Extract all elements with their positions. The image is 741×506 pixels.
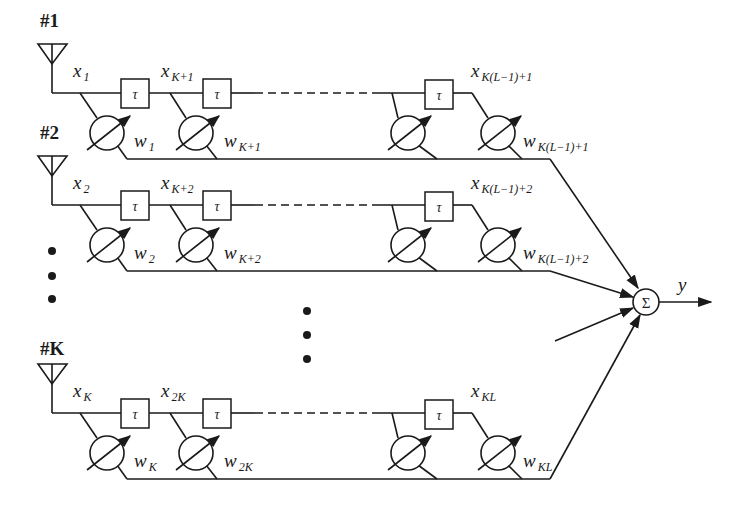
svg-text:x2: x2 bbox=[72, 172, 89, 196]
antenna-icon bbox=[38, 44, 67, 64]
svg-text:wK: wK bbox=[134, 450, 158, 474]
svg-text:x2K: x2K bbox=[160, 380, 186, 404]
svg-text:wK+2: wK+2 bbox=[224, 242, 261, 266]
summer-node: Σ bbox=[633, 289, 659, 315]
antenna-label-k: #K bbox=[40, 338, 65, 359]
svg-text:x1: x1 bbox=[72, 60, 89, 84]
svg-text:xKL: xKL bbox=[470, 380, 496, 404]
svg-text:xK+2: xK+2 bbox=[160, 172, 194, 196]
svg-text:xK(L−1)+1: xK(L−1)+1 bbox=[470, 60, 532, 84]
svg-text:w1: w1 bbox=[134, 130, 155, 154]
array-processor-diagram: Σ y #1 #2 #K τ τ τ τ τ τ τ τ τ x1 xK+1 x… bbox=[0, 0, 741, 506]
svg-text:w2: w2 bbox=[134, 242, 155, 266]
sigma-icon: Σ bbox=[642, 295, 651, 311]
antenna-label-1: #1 bbox=[40, 10, 59, 31]
antenna-icon bbox=[38, 156, 67, 176]
svg-text:xK(L−1)+2: xK(L−1)+2 bbox=[470, 172, 532, 196]
svg-text:xK: xK bbox=[72, 380, 92, 404]
svg-text:xK+1: xK+1 bbox=[160, 60, 194, 84]
antenna-label-2: #2 bbox=[40, 122, 59, 143]
svg-text:w2K: w2K bbox=[224, 450, 254, 474]
antenna-ellipsis bbox=[48, 247, 56, 303]
row-ellipsis bbox=[303, 307, 311, 363]
svg-text:wK(L−1)+2: wK(L−1)+2 bbox=[523, 242, 589, 266]
svg-text:wKL: wKL bbox=[523, 450, 553, 474]
summer-inputs bbox=[550, 159, 640, 479]
output-label: y bbox=[676, 274, 687, 295]
antenna-icon bbox=[38, 364, 67, 384]
svg-text:wK(L−1)+1: wK(L−1)+1 bbox=[523, 130, 589, 154]
svg-text:wK+1: wK+1 bbox=[224, 130, 261, 154]
